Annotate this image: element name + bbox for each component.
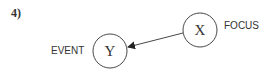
arrow-x-to-y — [128, 33, 183, 47]
event-label: EVENT — [51, 45, 84, 56]
node-y: Y — [93, 34, 127, 68]
node-x: X — [183, 13, 217, 47]
diagram-canvas: X Y — [0, 0, 269, 76]
node-y-label: Y — [105, 43, 116, 59]
focus-label: FOCUS — [224, 20, 259, 31]
node-x-label: X — [195, 22, 206, 38]
